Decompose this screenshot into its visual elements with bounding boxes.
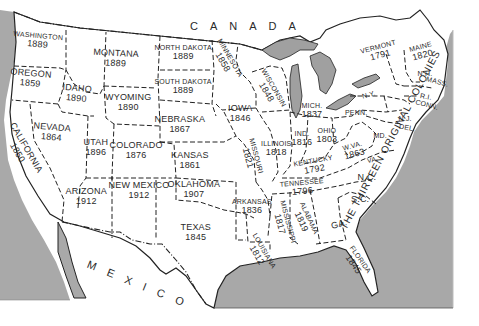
- state-label: NEVADA1864: [32, 120, 71, 143]
- admission-year: 1818: [261, 148, 291, 156]
- state-name: KANSAS: [171, 150, 209, 160]
- state-label: NORTH DAKOTA1889: [155, 44, 212, 60]
- state-label: MONTANA1889: [93, 47, 140, 69]
- state-label: TEXAS1845: [181, 222, 212, 242]
- state-label: IND.1816: [292, 130, 313, 146]
- state-label: SOUTH DAKOTA1889: [155, 78, 212, 94]
- state-label: OHIO1803: [317, 127, 338, 143]
- us-states-map: [0, 0, 479, 326]
- state-label: MICH.1837: [302, 102, 323, 118]
- state-label: COLORADO1876: [110, 140, 163, 160]
- admission-year: 1890: [105, 102, 151, 112]
- state-name: UTAH: [84, 137, 109, 147]
- admission-year: 1896: [84, 147, 109, 157]
- state-label: NEW MEXICO1912: [109, 180, 170, 200]
- admission-year: 1836: [232, 206, 272, 214]
- state-label: OREGON1859: [9, 66, 52, 90]
- state-label: PENN.: [345, 109, 367, 117]
- state-label: KANSAS1861: [171, 150, 209, 170]
- state-name: OKLAHOMA: [168, 179, 221, 189]
- admission-year: 1861: [171, 160, 209, 170]
- admission-year: 1846: [228, 113, 252, 123]
- state-name: ARIZONA: [66, 186, 107, 196]
- state-label: OKLAHOMA1907: [168, 179, 221, 199]
- state-label: NEBRASKA1867: [155, 114, 206, 134]
- admission-year: 1803: [317, 135, 338, 143]
- admission-year: 1889: [155, 86, 212, 94]
- admission-year: 1867: [155, 124, 206, 134]
- state-name: WYOMING: [105, 92, 151, 102]
- state-label: UTAH1896: [84, 137, 109, 157]
- admission-year: 1912: [109, 190, 170, 200]
- admission-year: 1845: [181, 232, 212, 242]
- state-name: IOWA: [228, 103, 252, 113]
- state-label: WYOMING1890: [105, 92, 151, 112]
- admission-year: 1889: [155, 52, 212, 60]
- state-name: PENN.: [345, 109, 367, 117]
- state-label: ARKANSAS1836: [232, 198, 272, 214]
- admission-year: 1876: [110, 150, 163, 160]
- state-label: IOWA1846: [228, 103, 252, 123]
- state-name: NEW MEXICO: [109, 180, 170, 190]
- state-label: ARIZONA1912: [66, 186, 107, 206]
- admission-year: 1912: [66, 196, 107, 206]
- state-name: COLORADO: [110, 140, 163, 150]
- state-name: TEXAS: [181, 222, 212, 232]
- admission-year: 1816: [292, 138, 313, 146]
- state-label: IDAHO1890: [61, 82, 92, 104]
- state-name: NEBRASKA: [155, 114, 206, 124]
- state-label: ILLINOIS1818: [261, 140, 291, 156]
- admission-year: 1907: [168, 189, 221, 199]
- admission-year: 1837: [302, 110, 323, 118]
- country-label-canada: CANADA: [190, 20, 308, 32]
